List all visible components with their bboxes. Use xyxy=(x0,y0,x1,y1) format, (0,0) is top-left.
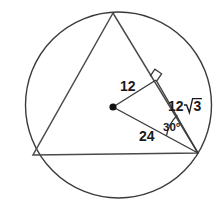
center-point xyxy=(109,103,116,110)
geometry-figure: 12 12 3 24 30° xyxy=(0,0,223,210)
right-angle-marker xyxy=(150,69,161,81)
geometry-canvas: 12 12 3 24 30° xyxy=(0,0,223,210)
label-apothem: 12 xyxy=(120,78,136,94)
label-circumradius-radicand: 3 xyxy=(194,98,202,114)
circumscribed-circle xyxy=(26,12,212,198)
label-side-segment: 24 xyxy=(139,128,155,144)
label-circumradius: 12 3 xyxy=(168,98,202,114)
label-angle: 30° xyxy=(163,121,181,133)
label-circumradius-number: 12 xyxy=(168,98,184,114)
